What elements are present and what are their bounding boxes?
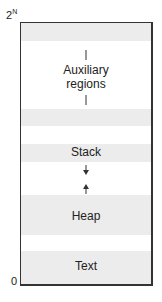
top-label-exponent: N bbox=[12, 8, 17, 15]
axis-top-label: 2N bbox=[6, 8, 17, 21]
top-band bbox=[21, 23, 151, 41]
heap-label: Heap bbox=[21, 209, 151, 223]
memory-layout-box: Auxiliary regions Stack Heap Text bbox=[20, 22, 153, 286]
mid-band bbox=[21, 109, 151, 126]
aux-bottom-tick bbox=[86, 95, 87, 105]
stack-down-arrow-icon bbox=[83, 170, 89, 175]
heap-arrow-shaft bbox=[86, 188, 87, 194]
stack-label: Stack bbox=[21, 145, 151, 159]
aux-top-tick bbox=[86, 50, 87, 60]
axis-bottom-label: 0 bbox=[11, 275, 17, 287]
aux-label-line2: regions bbox=[21, 77, 151, 91]
text-label: Text bbox=[21, 259, 151, 273]
aux-label-line1: Auxiliary bbox=[21, 63, 151, 77]
